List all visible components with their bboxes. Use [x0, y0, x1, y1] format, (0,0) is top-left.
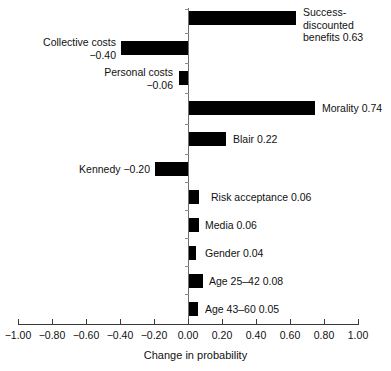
category-tick	[185, 210, 189, 211]
x-axis-tick	[256, 319, 257, 325]
bar-label-blair: Blair 0.22	[233, 133, 303, 146]
bar-label-morality: Morality 0.74	[322, 102, 391, 115]
x-axis-tick	[358, 319, 359, 325]
category-tick	[185, 266, 189, 267]
plot-area: Success- discounted benefits 0.63 Collec…	[0, 0, 391, 371]
category-tick	[185, 124, 189, 125]
bar-label-risk-acceptance: Risk acceptance 0.06	[211, 191, 341, 204]
x-axis-tick	[324, 319, 325, 325]
bar-label-personal-costs: Personal costs −0.06	[85, 66, 173, 91]
category-tick	[185, 182, 189, 183]
bar-kennedy	[155, 162, 189, 176]
x-axis-tick	[188, 319, 189, 325]
category-tick	[185, 238, 189, 239]
bar-age-43-60	[189, 302, 198, 316]
bar-label-age-43-60: Age 43–60 0.05	[205, 303, 335, 316]
category-tick	[185, 33, 189, 34]
x-axis-tick	[18, 319, 19, 325]
x-axis-tick	[154, 319, 155, 325]
x-axis-title: Change in probability	[0, 349, 391, 361]
bar-success-discounted-benefits	[189, 11, 296, 25]
category-tick	[185, 294, 189, 295]
bar-label-media: Media 0.06	[205, 219, 335, 232]
category-tick	[185, 93, 189, 94]
bar-label-kennedy: Kennedy −0.20	[58, 163, 150, 176]
x-axis-tick	[120, 319, 121, 325]
bar-label-success-discounted-benefits: Success- discounted benefits 0.63	[303, 6, 391, 44]
bar-label-age-25-42: Age 25–42 0.08	[209, 275, 339, 288]
bar-chart-figure: Success- discounted benefits 0.63 Collec…	[0, 0, 391, 371]
bar-gender	[189, 246, 196, 260]
bar-label-gender: Gender 0.04	[205, 247, 335, 260]
bar-age-25-42	[189, 274, 203, 288]
bar-blair	[189, 132, 226, 146]
bar-risk-acceptance	[189, 190, 199, 204]
zero-reference-line	[188, 8, 189, 325]
bar-label-collective-costs: Collective costs −0.40	[28, 36, 116, 61]
x-axis-tick-label: 1.00	[338, 329, 378, 342]
bar-collective-costs	[121, 41, 189, 55]
x-axis-tick	[52, 319, 53, 325]
x-axis-tick	[86, 319, 87, 325]
category-tick	[185, 154, 189, 155]
x-axis-tick	[290, 319, 291, 325]
bar-morality	[189, 101, 315, 115]
x-axis-tick	[222, 319, 223, 325]
category-tick	[185, 9, 189, 10]
category-tick	[185, 63, 189, 64]
bar-media	[189, 218, 199, 232]
